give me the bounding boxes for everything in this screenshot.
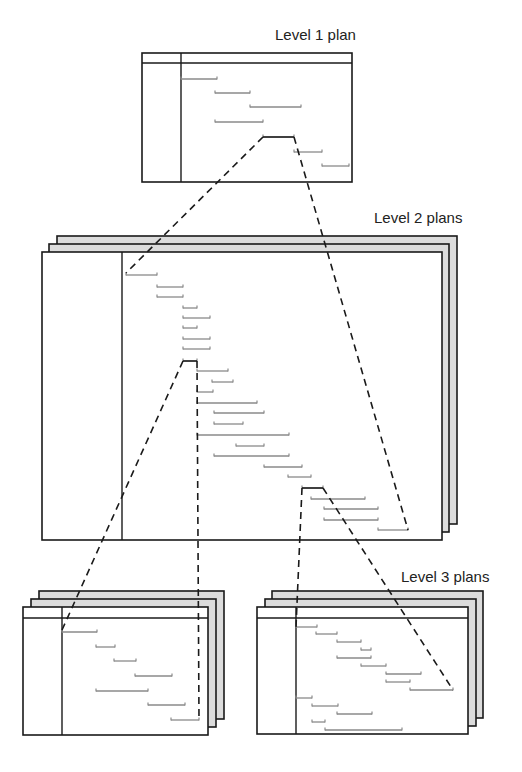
plan-sheet-front	[142, 53, 352, 182]
plan-level3-left	[23, 591, 224, 735]
level-1-label: Level 1 plan	[275, 26, 356, 43]
plan-level1	[142, 53, 352, 182]
plan-level2	[42, 236, 457, 540]
level-2-label: Level 2 plans	[374, 209, 462, 226]
level-3-label: Level 3 plans	[401, 568, 489, 585]
plan-sheet-front	[257, 607, 468, 734]
plan-level3-right	[257, 591, 483, 734]
hierarchical-plans-diagram	[0, 0, 522, 772]
plan-boxes	[23, 53, 483, 735]
plan-sheet-front	[42, 252, 442, 540]
plan-sheet-front	[23, 607, 208, 735]
